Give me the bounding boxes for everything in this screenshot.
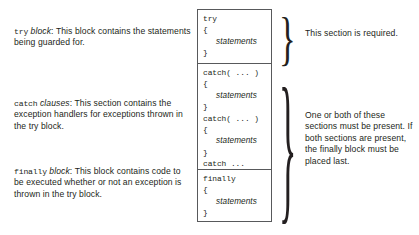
- code-section-catch: catch( ... ) { statements } catch( ... )…: [198, 63, 271, 169]
- keyword-try: try: [14, 27, 28, 36]
- code-line: }: [203, 101, 271, 112]
- code-line-statements: statements: [203, 135, 271, 146]
- code-line: catch ...: [203, 158, 271, 169]
- emphasis-clauses: clauses: [40, 98, 70, 108]
- code-line: catch( ... ): [203, 67, 271, 78]
- description-finally: finally block: This block contains code …: [14, 166, 192, 200]
- emphasis-block: block: [49, 166, 70, 176]
- description-try: try block: This block contains the state…: [14, 26, 192, 49]
- description-catch: catch clauses: This section contains the…: [14, 98, 192, 132]
- keyword-finally: finally: [14, 167, 47, 176]
- code-line-statements: statements: [203, 196, 271, 207]
- code-line: {: [203, 124, 271, 135]
- try-catch-finally-diagram: try block: This block contains the state…: [0, 0, 419, 235]
- code-line: try: [203, 13, 271, 24]
- code-structure-box: try { statements } catch( ... ) { statem…: [197, 9, 272, 222]
- code-line: {: [203, 184, 271, 195]
- code-line: finally: [203, 173, 271, 184]
- code-line-statements: statements: [203, 90, 271, 101]
- code-line-statements: statements: [203, 36, 271, 47]
- annotation-required: This section is required.: [305, 28, 415, 39]
- annotation-optional: One or both of these sections must be pr…: [305, 110, 415, 167]
- code-section-try: try { statements }: [198, 10, 271, 63]
- code-section-finally: finally { statements }: [198, 169, 271, 221]
- emphasis-block: block: [31, 26, 52, 36]
- curly-brace-icon-bottom: }: [279, 64, 296, 229]
- keyword-catch: catch: [14, 99, 37, 108]
- code-line: {: [203, 78, 271, 89]
- code-line: }: [203, 47, 271, 58]
- code-line: }: [203, 147, 271, 158]
- code-line: }: [203, 207, 271, 218]
- code-line: catch( ... ): [203, 113, 271, 124]
- code-line: {: [203, 24, 271, 35]
